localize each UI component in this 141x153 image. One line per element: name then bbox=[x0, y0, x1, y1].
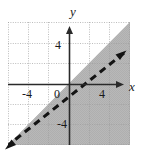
origin-label: 0 bbox=[54, 88, 60, 100]
x-tick-label-positive-4: 4 bbox=[99, 88, 105, 100]
y-tick-label-negative-4: -4 bbox=[57, 118, 67, 130]
y-axis-label: y bbox=[70, 5, 76, 18]
x-axis-label: x bbox=[129, 80, 135, 93]
y-tick-label-positive-4: 4 bbox=[55, 39, 61, 51]
x-tick-label-negative-4: -4 bbox=[22, 88, 32, 100]
coordinate-plane-figure: y x 4 -4 -4 0 4 bbox=[0, 0, 141, 153]
graph-svg bbox=[0, 0, 141, 153]
